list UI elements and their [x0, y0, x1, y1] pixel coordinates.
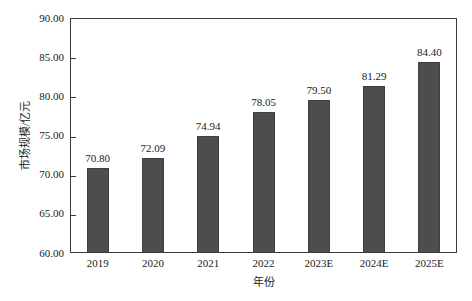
y-axis-tick-labels: 90.0085.0080.0075.0070.0065.0060.00: [18, 0, 64, 301]
y-axis-tick-label: 70.00: [18, 169, 64, 180]
y-axis-tick-label: 90.00: [18, 13, 64, 24]
x-axis-tick-label: 2024E: [348, 257, 400, 270]
y-axis-tick-label: 65.00: [18, 208, 64, 219]
x-axis-tick-label: 2021: [182, 257, 234, 270]
x-axis-tick-label: 2019: [72, 257, 124, 270]
x-axis-tick-labels: 20192020202120222023E2024E2025E: [70, 257, 457, 271]
bar: [142, 158, 164, 253]
y-axis-tick-label: 85.00: [18, 52, 64, 63]
x-axis-title: 年份: [70, 276, 457, 289]
bar-chart: 市场规模/亿元 90.0085.0080.0075.0070.0065.0060…: [0, 0, 472, 301]
bar: [87, 168, 109, 253]
bar-value-label: 78.05: [240, 97, 288, 108]
x-axis-tick-label: 2020: [127, 257, 179, 270]
bar-value-label: 84.40: [405, 47, 453, 58]
bar-value-label: 70.80: [74, 153, 122, 164]
bar: [418, 62, 440, 253]
y-axis-tick-label: 75.00: [18, 130, 64, 141]
bars-layer: 70.8072.0974.9478.0579.5081.2984.40: [70, 18, 457, 253]
y-axis-tick-label: 80.00: [18, 91, 64, 102]
bar-value-label: 79.50: [295, 85, 343, 96]
bar: [363, 86, 385, 253]
bar-value-label: 72.09: [129, 143, 177, 154]
y-axis-tick-label: 60.00: [18, 248, 64, 259]
bar-value-label: 81.29: [350, 71, 398, 82]
x-axis-tick-label: 2023E: [293, 257, 345, 270]
x-axis-tick-label: 2025E: [403, 257, 455, 270]
x-axis-tick-label: 2022: [238, 257, 290, 270]
bar: [253, 112, 275, 253]
bar: [197, 136, 219, 253]
bar-value-label: 74.94: [184, 121, 232, 132]
bar: [308, 100, 330, 253]
